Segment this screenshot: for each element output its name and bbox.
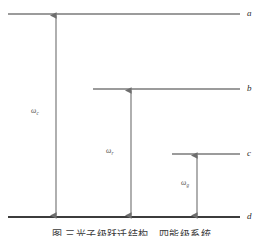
level-label-d: d (247, 212, 252, 221)
frequency-label-omega-g: ωg (181, 179, 189, 187)
frequency-label-omega-r: ωr (106, 147, 113, 155)
energy-level-diagram-canvas (0, 0, 263, 236)
omega-subscript-1: c (36, 110, 38, 116)
level-label-c: c (247, 149, 251, 158)
transition-arrows (56, 16, 197, 216)
energy-level-figure: a b c d ωc ωr ωg 图 三光子级跃迁结构 四能级系统 (0, 0, 263, 236)
frequency-label-omega-c: ωc (31, 107, 39, 115)
omega-subscript-3: g (186, 182, 189, 188)
figure-caption: 图 三光子级跃迁结构 四能级系统 (0, 226, 263, 236)
level-label-a: a (247, 9, 252, 18)
level-lines (8, 14, 240, 217)
omega-subscript-2: r (111, 150, 113, 156)
level-label-b: b (247, 84, 252, 93)
